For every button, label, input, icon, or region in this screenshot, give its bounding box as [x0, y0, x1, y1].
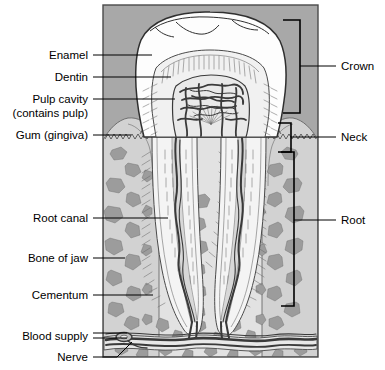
label-neck[interactable]: Neck: [278, 123, 367, 152]
tooth-cross-section-illustration: Enamel Dentin Pulp cavity (contains pulp…: [0, 0, 385, 370]
label-blood-supply-text: Blood supply: [22, 330, 88, 342]
label-gum-gingiva-text: Gum (gingiva): [16, 129, 88, 141]
label-nerve-text: Nerve: [57, 351, 88, 363]
label-root-text: Root: [341, 214, 366, 226]
label-pulp-cavity-subtext: (contains pulp): [13, 107, 89, 119]
label-root-canal-text: Root canal: [33, 212, 88, 224]
label-dentin-text: Dentin: [55, 71, 88, 83]
label-bone-of-jaw-text: Bone of jaw: [28, 252, 89, 264]
label-pulp-cavity-text: Pulp cavity: [32, 93, 88, 105]
label-enamel-text: Enamel: [49, 49, 88, 61]
label-neck-text: Neck: [341, 131, 367, 143]
label-root[interactable]: Root: [281, 152, 366, 306]
tooth-anatomy-diagram: Enamel Dentin Pulp cavity (contains pulp…: [0, 0, 385, 370]
label-cementum-text: Cementum: [32, 289, 88, 301]
label-crown-text: Crown: [341, 60, 374, 72]
tooth-crown: [136, 12, 286, 137]
